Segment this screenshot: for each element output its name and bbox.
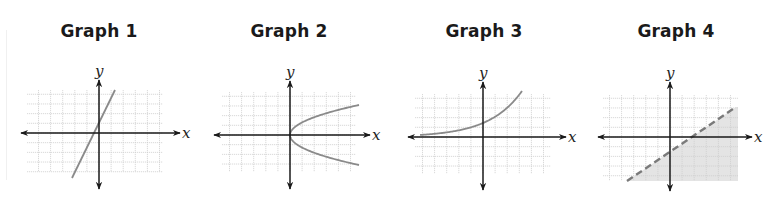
graph-4: xy [598,64,763,191]
x-axis-label: x [182,124,191,142]
graph-2: xy [214,63,381,189]
y-axis-label: y [665,64,675,82]
x-axis-label: x [568,128,577,146]
graph-3: xy [408,64,577,190]
graphs-canvas: xy xy xy xy [0,0,772,203]
line-curve [72,90,115,178]
graph-1: xy [21,62,191,189]
y-axis-label: y [478,64,488,82]
x-axis-label: x [372,126,381,144]
y-axis-label: y [285,63,295,81]
y-axis-label: y [94,62,104,80]
x-axis-label: x [754,128,763,146]
